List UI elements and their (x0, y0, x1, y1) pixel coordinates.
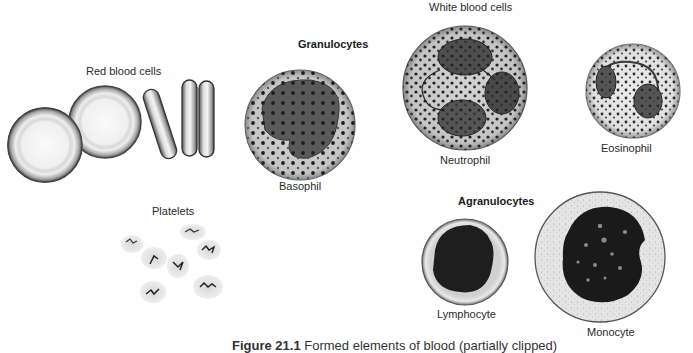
eosinophil-cell (586, 44, 680, 138)
red-blood-cells (8, 80, 214, 182)
basophil-label: Basophil (279, 180, 321, 192)
platelets-label: Platelets (152, 205, 194, 217)
monocyte-label: Monocyte (587, 326, 635, 338)
platelets (121, 224, 223, 303)
white-blood-cells-label: White blood cells (429, 1, 512, 13)
monocyte-cell (535, 192, 665, 322)
figure-number: Figure 21.1 (232, 338, 301, 353)
figure-caption: Figure 21.1 Formed elements of blood (pa… (232, 338, 557, 353)
basophil-cell (245, 70, 355, 180)
neutrophil-label: Neutrophil (440, 154, 490, 166)
eosinophil-label: Eosinophil (601, 142, 652, 154)
granulocytes-heading: Granulocytes (298, 38, 368, 50)
neutrophil-cell (403, 26, 527, 150)
lymphocyte-label: Lymphocyte (437, 308, 496, 320)
red-blood-cells-label: Red blood cells (86, 65, 161, 77)
figure-caption-text: Formed elements of blood (partially clip… (304, 338, 557, 353)
lymphocyte-cell (422, 219, 508, 305)
agranulocytes-heading: Agranulocytes (458, 195, 534, 207)
